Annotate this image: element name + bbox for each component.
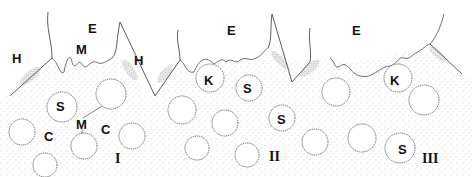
label-K: K: [204, 74, 213, 87]
panel-label-II: II: [269, 150, 280, 164]
panel-label-III: III: [422, 152, 438, 166]
label-S: S: [277, 113, 286, 126]
label-C: C: [44, 130, 53, 143]
label-S: S: [243, 82, 252, 95]
label-S: S: [56, 100, 65, 113]
label-M: M: [76, 43, 87, 56]
panel-label-I: I: [115, 152, 120, 166]
label-E: E: [88, 22, 97, 35]
label-C: C: [101, 123, 110, 136]
cell-diagram-figure: H E M H S M C C E K S S E K S I II III: [0, 0, 472, 177]
label-H: H: [12, 52, 21, 65]
label-S: S: [398, 143, 407, 156]
label-H: H: [134, 54, 143, 67]
label-M: M: [76, 118, 87, 131]
label-E: E: [352, 24, 361, 37]
label-K: K: [390, 74, 399, 87]
label-E: E: [227, 24, 236, 37]
